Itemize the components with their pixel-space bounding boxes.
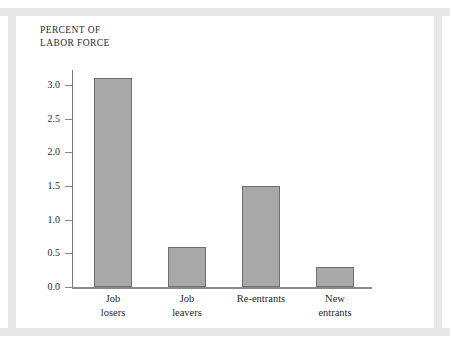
y-axis-tick: 0.5 bbox=[65, 253, 72, 254]
plot-area: PERCENT OF LABOR FORCE 0.00.51.01.52.02.… bbox=[16, 16, 434, 328]
y-axis-tick-label: 0.5 bbox=[48, 247, 61, 258]
y-axis-tick: 3.0 bbox=[65, 85, 72, 86]
bar bbox=[168, 247, 206, 287]
chart-panel: PERCENT OF LABOR FORCE 0.00.51.01.52.02.… bbox=[16, 16, 434, 328]
y-axis-tick: 2.0 bbox=[65, 152, 72, 153]
y-axis-tick: 2.5 bbox=[65, 119, 72, 120]
y-axis-tick-label: 2.0 bbox=[48, 146, 61, 157]
y-axis-tick-label: 2.5 bbox=[48, 113, 61, 124]
frame-band-top bbox=[0, 8, 450, 16]
frame-band-left bbox=[8, 8, 16, 336]
y-axis-tick-label: 0.0 bbox=[48, 281, 61, 292]
x-axis-category-label: New entrants bbox=[292, 292, 378, 319]
bar bbox=[94, 78, 132, 287]
y-axis-tick: 1.5 bbox=[65, 186, 72, 187]
y-axis-line bbox=[72, 70, 73, 288]
y-axis-tick-label: 1.5 bbox=[48, 180, 61, 191]
y-axis-tick: 0.0 bbox=[65, 287, 72, 288]
bar bbox=[242, 186, 280, 287]
frame-band-right bbox=[434, 8, 442, 336]
y-axis-tick-label: 3.0 bbox=[48, 79, 61, 90]
frame-band-bottom bbox=[0, 328, 450, 336]
x-axis-line bbox=[72, 287, 372, 289]
y-axis-tick: 1.0 bbox=[65, 220, 72, 221]
y-axis-tick-label: 1.0 bbox=[48, 214, 61, 225]
figure-root: PERCENT OF LABOR FORCE 0.00.51.01.52.02.… bbox=[0, 0, 450, 344]
y-axis-title: PERCENT OF LABOR FORCE bbox=[40, 24, 110, 50]
bar bbox=[316, 267, 354, 287]
